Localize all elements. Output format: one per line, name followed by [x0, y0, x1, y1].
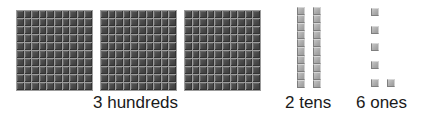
flat-cell — [78, 67, 85, 74]
flat-cell — [47, 19, 54, 26]
flat-cell — [55, 75, 62, 82]
flat-cell — [116, 83, 123, 90]
flat-cell — [40, 83, 47, 90]
flat-cell — [215, 19, 222, 26]
flat-cell — [215, 67, 222, 74]
flat-cell — [101, 43, 108, 50]
flat-cell — [169, 51, 176, 58]
flat-cell — [246, 83, 253, 90]
flat-cell — [223, 11, 230, 18]
flat-cell — [109, 11, 116, 18]
flat-cell — [109, 27, 116, 34]
flat-cell — [116, 19, 123, 26]
flat-cell — [40, 35, 47, 42]
flat-cell — [131, 51, 138, 58]
flat-cell — [40, 75, 47, 82]
flat-cell — [169, 59, 176, 66]
rod-unit — [313, 15, 321, 23]
flat-cell — [70, 67, 77, 74]
flat-cell — [147, 35, 154, 42]
flat-cell — [116, 35, 123, 42]
flat-cell — [47, 75, 54, 82]
flat-cell — [193, 83, 200, 90]
flat-cell — [246, 11, 253, 18]
flat-cell — [32, 27, 39, 34]
rod-unit — [297, 23, 305, 31]
flat-cell — [246, 59, 253, 66]
flat-cell — [223, 19, 230, 26]
flat-cell — [246, 27, 253, 34]
flat-cell — [162, 51, 169, 58]
flat-cell — [185, 51, 192, 58]
flat-cell — [124, 11, 131, 18]
flat-cell — [169, 19, 176, 26]
flat-cell — [70, 19, 77, 26]
flat-cell — [101, 11, 108, 18]
flat-cell — [154, 59, 161, 66]
flat-cell — [131, 27, 138, 34]
flat-cell — [70, 75, 77, 82]
flat-cell — [47, 83, 54, 90]
flat-cell — [154, 67, 161, 74]
flat-cell — [17, 59, 24, 66]
flat-cell — [139, 35, 146, 42]
flat-cell — [238, 43, 245, 50]
flat-cell — [63, 27, 70, 34]
ten-rod-1 — [297, 7, 305, 88]
flat-cell — [47, 59, 54, 66]
flat-cell — [215, 75, 222, 82]
flat-cell — [124, 35, 131, 42]
flat-cell — [40, 51, 47, 58]
flat-cell — [253, 27, 260, 34]
rod-unit — [297, 15, 305, 23]
flat-cell — [25, 51, 32, 58]
flat-cell — [231, 75, 238, 82]
flat-cell — [154, 19, 161, 26]
flat-cell — [185, 11, 192, 18]
flat-cell — [124, 59, 131, 66]
flat-cell — [78, 43, 85, 50]
flat-cell — [17, 83, 24, 90]
flat-cell — [169, 27, 176, 34]
flat-cell — [40, 43, 47, 50]
flat-cell — [32, 67, 39, 74]
flat-cell — [200, 83, 207, 90]
flat-cell — [253, 59, 260, 66]
flat-cell — [101, 83, 108, 90]
flat-cell — [200, 67, 207, 74]
flat-cell — [55, 51, 62, 58]
flat-cell — [17, 35, 24, 42]
flat-cell — [139, 83, 146, 90]
flat-cell — [193, 43, 200, 50]
flat-cell — [238, 75, 245, 82]
flat-cell — [32, 75, 39, 82]
flat-cell — [223, 35, 230, 42]
flat-cell — [17, 75, 24, 82]
flat-cell — [139, 19, 146, 26]
flat-cell — [193, 59, 200, 66]
flat-cell — [70, 59, 77, 66]
rod-unit — [313, 39, 321, 47]
flat-cell — [116, 11, 123, 18]
flat-cell — [215, 83, 222, 90]
flat-cell — [185, 35, 192, 42]
flat-cell — [70, 11, 77, 18]
flat-cell — [162, 11, 169, 18]
flat-cell — [55, 83, 62, 90]
unit-cube-2 — [371, 26, 379, 34]
flat-cell — [147, 19, 154, 26]
flat-cell — [162, 35, 169, 42]
flat-cell — [131, 83, 138, 90]
flat-cell — [85, 67, 92, 74]
flat-cell — [231, 67, 238, 74]
flat-cell — [200, 59, 207, 66]
flat-cell — [63, 83, 70, 90]
flat-cell — [185, 75, 192, 82]
unit-cube-1 — [371, 8, 379, 16]
flat-cell — [246, 35, 253, 42]
flat-cell — [253, 51, 260, 58]
flat-cell — [85, 19, 92, 26]
flat-cell — [116, 43, 123, 50]
flat-cell — [63, 19, 70, 26]
flat-cell — [63, 51, 70, 58]
